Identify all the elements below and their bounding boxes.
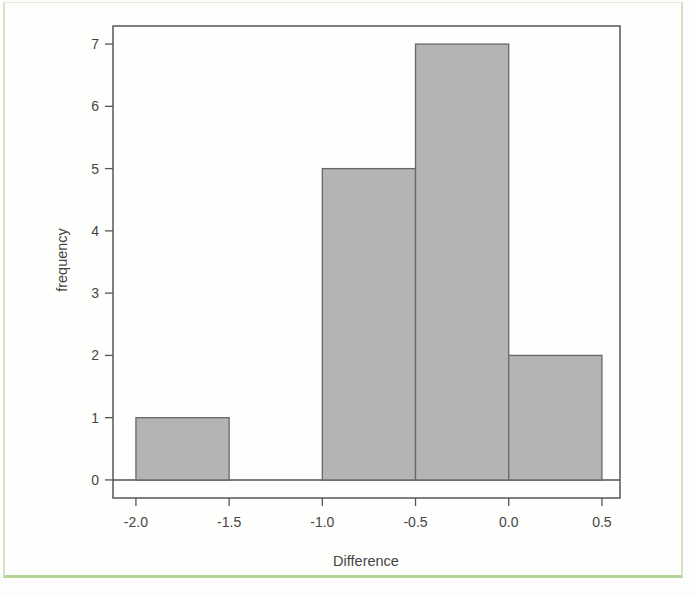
- x-tick-label: 0.5: [592, 514, 612, 530]
- y-tick-label: 1: [91, 410, 99, 426]
- x-tick-label: -2.0: [124, 514, 148, 530]
- histogram-bar: [322, 169, 415, 480]
- scanned-page: 01234567-2.0-1.5-1.0-0.50.00.5 frequency…: [0, 0, 695, 596]
- y-axis-title: frequency: [54, 228, 70, 292]
- y-tick-label: 4: [91, 223, 99, 239]
- x-axis-title: Difference: [333, 553, 399, 569]
- plot-svg: 01234567-2.0-1.5-1.0-0.50.00.5: [0, 0, 695, 596]
- y-tick-label: 6: [91, 98, 99, 114]
- y-tick-label: 2: [91, 347, 99, 363]
- histogram-bar: [509, 355, 602, 480]
- y-tick-label: 3: [91, 285, 99, 301]
- y-tick-label: 5: [91, 161, 99, 177]
- histogram-bar: [136, 418, 229, 480]
- x-tick-label: -1.5: [217, 514, 241, 530]
- x-tick-label: -0.5: [403, 514, 427, 530]
- y-tick-label: 7: [91, 36, 99, 52]
- x-tick-label: 0.0: [499, 514, 519, 530]
- x-tick-label: -1.0: [310, 514, 334, 530]
- y-tick-label: 0: [91, 472, 99, 488]
- histogram-bar: [416, 44, 509, 480]
- histogram-chart: 01234567-2.0-1.5-1.0-0.50.00.5 frequency…: [0, 0, 695, 596]
